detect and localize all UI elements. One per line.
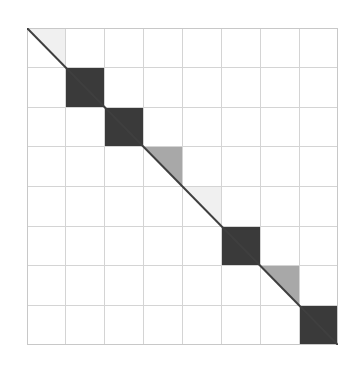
figure-canvas: [0, 0, 357, 372]
matrix-diagonal-svg: [27, 28, 338, 345]
matrix-diagonal-line: [27, 28, 338, 345]
matrix-plot-area: [27, 28, 338, 345]
matrix-diagonal-layer: [27, 28, 338, 345]
